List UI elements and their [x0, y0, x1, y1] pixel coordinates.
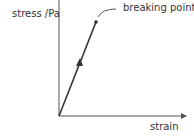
stress-strain-diagram [0, 0, 194, 138]
y-axis-label: stress /Pa [12, 8, 60, 19]
stress-strain-line [59, 22, 96, 116]
breaking-point-label: breaking point [123, 2, 194, 13]
annotation-leader [98, 9, 116, 17]
x-axis-label: strain [150, 121, 179, 132]
breaking-point-marker [94, 20, 98, 24]
